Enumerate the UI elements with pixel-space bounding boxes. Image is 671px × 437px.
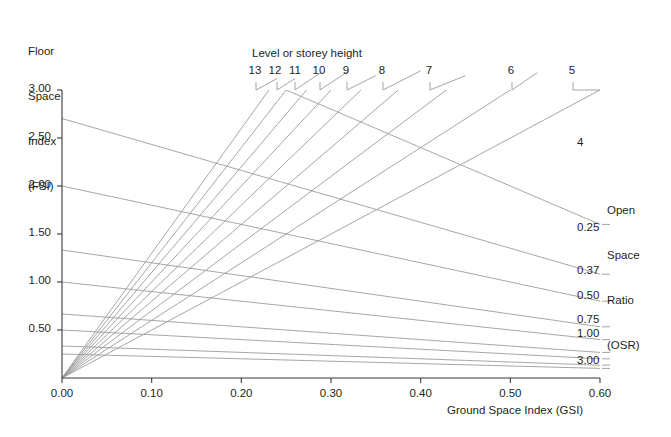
storey-label-8: 8: [369, 64, 395, 76]
storey-label-9: 9: [333, 64, 359, 76]
storey-label-6: 6: [498, 64, 524, 76]
right-axis-title-line-4: (OSR): [607, 338, 640, 353]
storey-leader-7: [430, 76, 466, 90]
osr-curve-0.37: [62, 119, 600, 275]
x-tick-label-0.50: 0.50: [487, 387, 533, 399]
x-tick-label-0.30: 0.30: [308, 387, 354, 399]
storey-line-5: [62, 90, 600, 378]
osr-label-0.37: 0.37: [577, 264, 599, 276]
y-tick-label-3.00: 3.00: [5, 82, 51, 94]
right-axis-title: Open Space Ratio (OSR): [607, 173, 640, 383]
osr-label-0.50: 0.50: [577, 289, 599, 301]
storey-line-6: [62, 73, 537, 378]
spacematrix-chart: Floor Space Index (FSI) Open Space Ratio…: [0, 0, 671, 437]
x-tick-label-0.00: 0.00: [39, 387, 85, 399]
osr-curve-2.00: [62, 330, 600, 359]
storey-leader-13: [256, 78, 277, 90]
osr-label-0.75: 0.75: [577, 313, 599, 325]
x-tick-label-0.10: 0.10: [129, 387, 175, 399]
osr-curve-1.00: [62, 282, 600, 340]
storey-label-11: 11: [282, 64, 308, 76]
y-tick-label-1.50: 1.50: [5, 226, 51, 238]
storey-label-5: 5: [559, 64, 585, 76]
y-tick-label-0.50: 0.50: [5, 322, 51, 334]
storey-line-7: [62, 76, 466, 378]
osr-label-0.25: 0.25: [577, 221, 599, 233]
right-axis-title-line-1: Open: [607, 203, 640, 218]
storey-legend-title: Level or storey height: [252, 46, 362, 61]
storey-label-10: 10: [306, 64, 332, 76]
storey-leader-12: [277, 78, 295, 90]
storey-label-7: 7: [416, 64, 442, 76]
right-axis-title-line-3: Ratio: [607, 293, 640, 308]
y-axis-title-line-1: Floor: [28, 44, 61, 59]
x-axis-title: Ground Space Index (GSI): [447, 403, 583, 418]
osr-curve-0.75: [62, 250, 600, 327]
y-axis-title: Floor Space Index (FSI): [28, 14, 61, 224]
x-tick-label-0.60: 0.60: [577, 387, 623, 399]
osr-label-4: 4: [577, 136, 583, 148]
curve-group: [62, 52, 600, 378]
y-tick-label-1.00: 1.00: [5, 274, 51, 286]
right-axis-title-line-2: Space: [607, 248, 640, 263]
osr-curve-4: [62, 354, 600, 368]
osr-curve-0.50: [62, 186, 600, 301]
osr-label-1.00: 1.00: [577, 327, 599, 339]
storey-leader-9: [347, 76, 376, 90]
osr-curve-1.50: [62, 314, 600, 352]
storey-line-13: [62, 78, 277, 378]
y-tick-label-2.50: 2.50: [5, 130, 51, 142]
x-tick-label-0.40: 0.40: [398, 387, 444, 399]
x-tick-label-0.20: 0.20: [218, 387, 264, 399]
osr-curve-3.00: [62, 346, 600, 365]
osr-label-3.00: 3.00: [577, 354, 599, 366]
y-tick-label-2.00: 2.00: [5, 178, 51, 190]
